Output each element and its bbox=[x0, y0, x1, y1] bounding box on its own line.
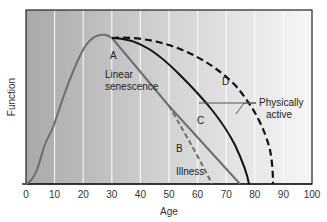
label-physically: Physically bbox=[259, 97, 303, 108]
svg-text:20: 20 bbox=[78, 189, 90, 200]
svg-text:30: 30 bbox=[106, 189, 118, 200]
svg-text:50: 50 bbox=[163, 189, 175, 200]
label-a: A bbox=[110, 50, 117, 61]
x-axis-label: Age bbox=[160, 206, 178, 217]
label-c: C bbox=[197, 115, 204, 126]
label-active: active bbox=[266, 109, 293, 120]
age-function-chart: A Linear senescence B Illness C D Physic… bbox=[0, 0, 327, 222]
svg-text:40: 40 bbox=[135, 189, 147, 200]
label-senescence: senescence bbox=[105, 81, 159, 92]
svg-text:60: 60 bbox=[192, 189, 204, 200]
y-axis-label: Function bbox=[6, 78, 17, 116]
svg-text:70: 70 bbox=[221, 189, 233, 200]
label-b: B bbox=[176, 143, 183, 154]
x-tick-labels: 0 10 20 30 40 50 60 70 80 90 100 bbox=[23, 189, 321, 200]
svg-text:10: 10 bbox=[49, 189, 61, 200]
svg-text:90: 90 bbox=[278, 189, 290, 200]
label-d: D bbox=[222, 76, 229, 87]
svg-text:100: 100 bbox=[304, 189, 321, 200]
svg-text:80: 80 bbox=[249, 189, 261, 200]
label-linear: Linear bbox=[105, 69, 133, 80]
svg-text:0: 0 bbox=[23, 189, 29, 200]
label-illness: Illness bbox=[176, 166, 204, 177]
